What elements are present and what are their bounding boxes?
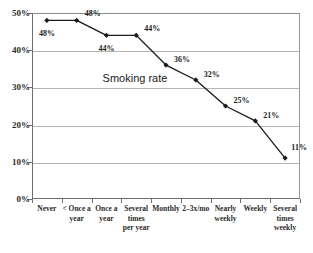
x-axis-label-line: weekly <box>205 214 247 224</box>
y-axis-tick-label: 0% <box>0 194 30 204</box>
chart-annotation: Smoking rate <box>103 72 168 84</box>
y-axis-tick-label: 10% <box>0 157 30 167</box>
x-axis-tick <box>181 199 182 203</box>
x-axis-tick <box>121 199 122 203</box>
y-axis-tick-label: 30% <box>0 82 30 92</box>
x-axis-tick <box>240 199 241 203</box>
y-axis-tick-label: 40% <box>0 45 30 55</box>
clipped-title-sliver <box>58 0 268 5</box>
x-axis-tick <box>300 199 301 203</box>
series-smoking-rate <box>32 13 300 199</box>
x-axis-label-line: Several <box>264 204 306 214</box>
y-axis-tick-label: 20% <box>0 120 30 130</box>
point-value-label: 25% <box>234 96 250 105</box>
x-axis-category-labels: Never< Once ayearOnce ayearSeveraltimesp… <box>32 204 300 250</box>
x-axis-tick <box>151 199 152 203</box>
x-axis-label-line: times <box>115 214 157 224</box>
point-value-label: 44% <box>98 44 114 53</box>
point-value-label: 32% <box>204 69 220 78</box>
series-marker <box>104 33 109 38</box>
x-axis-category-label: Severaltimesweekly <box>264 204 306 233</box>
series-markers <box>44 18 287 161</box>
series-marker <box>74 18 79 23</box>
point-value-label: 48% <box>39 29 55 38</box>
smoking-rate-line-chart: 50%40%30%20%10%0% 48%48%44%44%36%32%25%2… <box>0 0 313 253</box>
point-value-label: 44% <box>144 24 160 33</box>
x-axis-label-line: times <box>264 214 306 224</box>
series-marker <box>44 18 49 23</box>
y-axis-labels: 50%40%30%20%10%0% <box>0 13 30 199</box>
x-axis-tick <box>270 199 271 203</box>
point-value-label: 36% <box>174 55 190 64</box>
x-axis-label-line: per year <box>115 223 157 233</box>
point-value-label: 11% <box>291 143 307 152</box>
x-axis-tick <box>32 199 33 203</box>
point-value-label: 21% <box>263 110 279 119</box>
series-line <box>47 20 285 158</box>
y-axis-tick-label: 50% <box>0 8 30 18</box>
x-axis-label-line: weekly <box>264 223 306 233</box>
point-value-label: 48% <box>85 9 101 18</box>
x-axis-tick <box>92 199 93 203</box>
x-axis-tick <box>211 199 212 203</box>
x-axis-tick <box>62 199 63 203</box>
